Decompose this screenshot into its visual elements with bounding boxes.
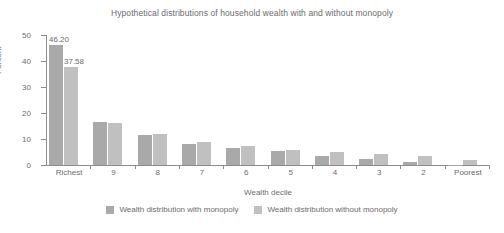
x-tick-label: 9 <box>111 168 115 177</box>
x-tick-label: 7 <box>200 168 204 177</box>
y-tick-label: 20 <box>22 109 31 118</box>
bar-group <box>269 35 313 165</box>
x-tick-label: 8 <box>156 168 160 177</box>
bar[interactable] <box>330 152 344 165</box>
bar[interactable] <box>93 122 107 165</box>
bar-group: 46.2037.58 <box>47 35 91 165</box>
bar[interactable] <box>271 151 285 165</box>
bar-groups: 46.2037.58 <box>47 35 490 165</box>
bar[interactable] <box>138 135 152 165</box>
bar[interactable] <box>153 134 167 165</box>
y-tick-label: 50 <box>22 31 31 40</box>
chart-figure: Hypothetical distributions of household … <box>0 0 504 233</box>
bar[interactable] <box>286 150 300 165</box>
x-tick-label: 2 <box>421 168 425 177</box>
y-tick-mark <box>41 35 46 36</box>
x-axis-title: Wealth decile <box>46 188 490 197</box>
bar-data-label: 37.58 <box>64 57 84 66</box>
bar[interactable] <box>241 146 255 165</box>
bar[interactable] <box>226 148 240 165</box>
bar-group <box>313 35 357 165</box>
legend-label: Wealth distribution without monopoly <box>267 205 397 214</box>
legend-item[interactable]: Wealth distribution with monopoly <box>106 205 238 214</box>
bar-data-label: 46.20 <box>49 35 69 44</box>
legend-item[interactable]: Wealth distribution without monopoly <box>254 205 397 214</box>
x-tick-label: 6 <box>244 168 248 177</box>
x-tick-label: Poorest <box>454 168 482 177</box>
y-tick-mark <box>41 113 46 114</box>
bar[interactable] <box>374 154 388 165</box>
bar[interactable] <box>197 142 211 165</box>
bar-group <box>136 35 180 165</box>
bar-group <box>224 35 268 165</box>
legend-swatch-icon <box>254 206 262 214</box>
bar[interactable] <box>315 156 329 165</box>
bar-group <box>357 35 401 165</box>
y-axis-tick-labels: 01020304050 <box>0 35 40 166</box>
x-tick-label: 5 <box>288 168 292 177</box>
bar[interactable] <box>182 144 196 165</box>
bar[interactable] <box>463 160 477 165</box>
bar[interactable] <box>64 67 78 165</box>
bar[interactable] <box>49 45 63 165</box>
y-tick-label: 30 <box>22 83 31 92</box>
chart-title: Hypothetical distributions of household … <box>0 8 504 18</box>
bar[interactable] <box>418 156 432 165</box>
bar-group <box>180 35 224 165</box>
y-tick-mark <box>41 165 46 166</box>
y-tick-mark <box>41 139 46 140</box>
legend-swatch-icon <box>106 206 114 214</box>
plot-area: 46.2037.58 <box>46 35 490 165</box>
bar-group <box>91 35 135 165</box>
y-tick-mark <box>41 61 46 62</box>
y-tick-mark <box>41 87 46 88</box>
legend-label: Wealth distribution with monopoly <box>119 205 238 214</box>
bar[interactable] <box>359 159 373 165</box>
x-tick-label: 4 <box>333 168 337 177</box>
x-tick-label: Richest <box>56 168 83 177</box>
bar[interactable] <box>403 162 417 165</box>
x-axis-tick-labels: Richest98765432Poorest <box>46 168 490 182</box>
x-tick-label: 3 <box>377 168 381 177</box>
y-tick-label: 10 <box>22 135 31 144</box>
y-tick-label: 0 <box>27 161 31 170</box>
bar-group <box>446 35 490 165</box>
bar[interactable] <box>108 123 122 165</box>
chart-legend: Wealth distribution with monopolyWealth … <box>0 205 504 214</box>
bar-group <box>401 35 445 165</box>
y-tick-label: 40 <box>22 57 31 66</box>
